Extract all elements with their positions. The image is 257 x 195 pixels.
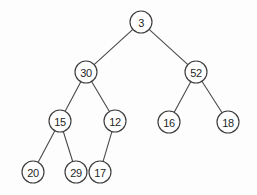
tree-node-16[interactable]: 16 <box>158 111 180 133</box>
node-label-17: 17 <box>94 167 106 179</box>
tree-edge-12-to-17 <box>103 132 112 162</box>
tree-edge-52-to-18 <box>202 81 222 112</box>
tree-edge-15-to-20 <box>38 131 55 163</box>
binary-tree-canvas: 3305215121618202917 <box>0 0 257 195</box>
node-label-52: 52 <box>190 67 202 79</box>
node-label-30: 30 <box>80 67 92 79</box>
tree-node-17[interactable]: 17 <box>89 161 111 183</box>
node-label-29: 29 <box>70 167 82 179</box>
node-label-15: 15 <box>54 116 66 128</box>
node-label-18: 18 <box>222 117 234 129</box>
tree-edge-30-to-12 <box>92 81 110 111</box>
tree-node-3[interactable]: 3 <box>130 11 152 33</box>
tree-node-12[interactable]: 12 <box>104 110 126 132</box>
node-label-12: 12 <box>109 116 121 128</box>
node-label-16: 16 <box>163 117 175 129</box>
tree-node-18[interactable]: 18 <box>217 111 239 133</box>
tree-node-15[interactable]: 15 <box>49 110 71 132</box>
node-label-3: 3 <box>138 17 144 29</box>
tree-node-29[interactable]: 29 <box>65 161 87 183</box>
tree-node-20[interactable]: 20 <box>22 161 44 183</box>
binary-tree-figure: 3305215121618202917 <box>0 0 257 195</box>
tree-edge-52-to-16 <box>174 82 191 113</box>
edge-layer <box>38 29 222 162</box>
tree-edge-15-to-29 <box>63 132 72 162</box>
tree-node-30[interactable]: 30 <box>75 61 97 83</box>
node-label-20: 20 <box>27 167 39 179</box>
tree-edge-30-to-15 <box>65 82 81 112</box>
node-layer: 3305215121618202917 <box>22 11 239 183</box>
tree-edge-3-to-52 <box>149 29 188 64</box>
tree-edge-3-to-30 <box>94 29 133 64</box>
tree-node-52[interactable]: 52 <box>185 61 207 83</box>
